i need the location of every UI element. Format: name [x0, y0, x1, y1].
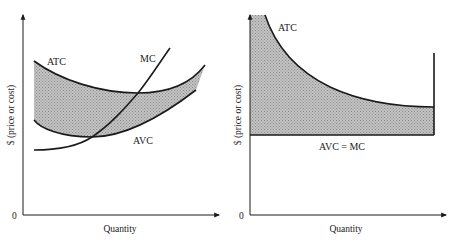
left-x-axis-label: Quantity: [103, 224, 136, 234]
right-y-axis-label: $ (price or cost): [233, 85, 244, 145]
cost-curves-diagram: ATC MC AVC 0 Quantity $ (price or cost) …: [0, 0, 453, 242]
left-y-axis-label: $ (price or cost): [6, 85, 17, 145]
right-shaded-area: [250, 15, 434, 135]
left-origin-label: 0: [12, 211, 17, 221]
left-mc-label: MC: [140, 53, 156, 64]
right-atc-label: ATC: [278, 22, 297, 33]
right-avc-mc-label: AVC = MC: [319, 141, 365, 152]
right-origin-label: 0: [239, 211, 244, 221]
left-avc-label: AVC: [133, 135, 153, 146]
right-chart: ATC AVC = MC 0 Quantity $ (price or cost…: [233, 15, 446, 234]
left-chart: ATC MC AVC 0 Quantity $ (price or cost): [6, 15, 219, 234]
right-x-axis-label: Quantity: [329, 224, 362, 234]
left-atc-label: ATC: [47, 56, 66, 67]
left-shaded-area: [34, 61, 205, 137]
